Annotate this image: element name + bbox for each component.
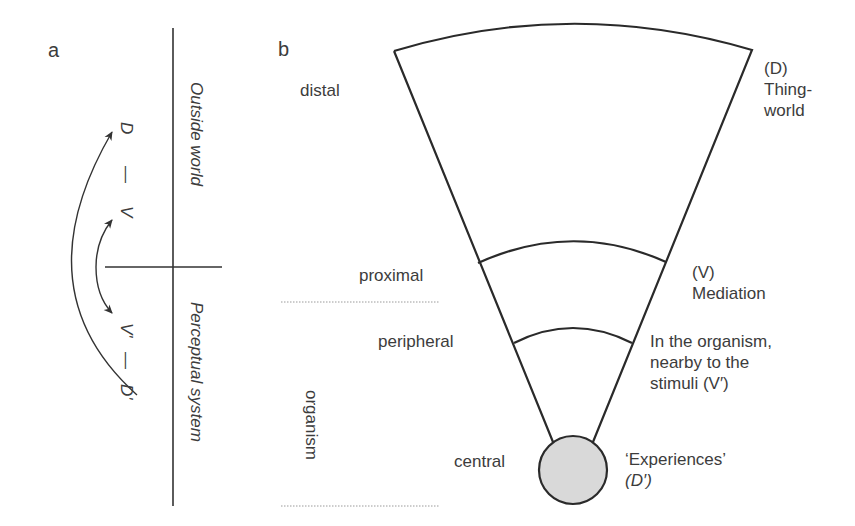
- d-prime-label: D': [116, 384, 136, 400]
- inner-arc-arrow-down: [96, 267, 112, 313]
- panel-b-label: b: [278, 39, 289, 60]
- central-label: central: [454, 451, 505, 472]
- peripheral-label: peripheral: [378, 331, 454, 352]
- d-label: D: [116, 122, 136, 134]
- proximal-arc: [478, 241, 666, 263]
- outside-world-label: Outside world: [186, 82, 206, 186]
- v-prime-label: V': [116, 323, 136, 338]
- experiences-annotation: ‘Experiences’ (D′): [625, 449, 726, 491]
- inner-arc-arrow-up: [96, 220, 112, 267]
- dash-bottom: —: [116, 352, 136, 369]
- peripheral-arc: [514, 328, 632, 343]
- dash-top: —: [116, 166, 136, 183]
- proximal-label: proximal: [359, 265, 423, 286]
- panel-a-label: a: [48, 40, 59, 61]
- organism-label: organism: [301, 390, 321, 460]
- v-label: V: [116, 206, 136, 217]
- central-circle: [539, 436, 607, 504]
- perceptual-system-label: Perceptual system: [186, 302, 206, 442]
- panel-b-graphics: [281, 24, 752, 506]
- mediation-annotation: (V) Mediation: [692, 262, 766, 304]
- in-organism-annotation: In the organism, nearby to the stimuli (…: [650, 331, 772, 394]
- thing-world-annotation: (D) Thing- world: [764, 58, 812, 121]
- distal-label: distal: [300, 80, 340, 101]
